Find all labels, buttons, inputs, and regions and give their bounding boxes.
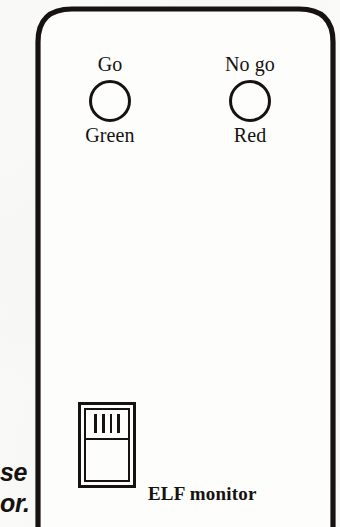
caption-fragment-line-1: se — [0, 458, 27, 487]
indicator-go: Go Green — [50, 54, 170, 146]
figure-canvas: Go Green No go Red ELF monitor se or. — [0, 0, 340, 527]
rocker-switch[interactable] — [78, 402, 136, 488]
rocker-ridge-line — [110, 414, 113, 433]
rocker-switch-body — [84, 408, 130, 482]
rocker-ridge-line — [117, 414, 120, 433]
indicator-no-go-bottom-label: Red — [190, 125, 310, 147]
led-circle-icon-no-go[interactable] — [229, 80, 271, 122]
indicator-no-go-top-label: No go — [190, 54, 310, 76]
indicator-no-go: No go Red — [190, 54, 310, 146]
indicator-go-bottom-label: Green — [50, 125, 170, 147]
caption-fragment-line-2: or. — [0, 489, 30, 518]
led-circle-icon-go[interactable] — [89, 80, 131, 122]
rocker-switch-ridges — [86, 410, 128, 440]
rocker-ridge-line — [94, 414, 97, 433]
rocker-ridge-line — [102, 414, 105, 433]
device-label: ELF monitor — [148, 483, 257, 505]
rocker-switch-face — [86, 440, 128, 480]
indicator-go-top-label: Go — [50, 54, 170, 76]
